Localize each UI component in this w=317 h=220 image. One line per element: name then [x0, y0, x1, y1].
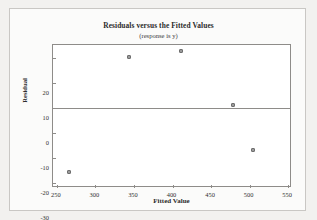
x-tick-marks [53, 45, 290, 186]
figure-canvas: Residuals versus the Fitted Values (resp… [0, 0, 317, 220]
zero-reference-line [53, 108, 290, 109]
y-tick-label: -20 [40, 188, 49, 195]
y-tick-label: -10 [40, 163, 49, 170]
plot-frame [52, 44, 291, 187]
y-axis-tick-labels: 20100-10-20-30 [24, 44, 49, 187]
x-axis-title: Fitted Value [52, 197, 291, 205]
page-title: Residuals versus the Fitted Values [10, 21, 307, 31]
chart-card: Residuals versus the Fitted Values (resp… [9, 8, 306, 211]
chart-subtitle: (response is y) [10, 31, 307, 41]
y-tick-label: 10 [43, 113, 49, 120]
data-point [179, 49, 183, 53]
data-point [127, 55, 131, 59]
y-axis-title: Residual [21, 61, 28, 121]
title-block: Residuals versus the Fitted Values (resp… [10, 21, 307, 41]
data-point [231, 103, 235, 107]
y-tick-label: 0 [46, 138, 49, 145]
y-tick-label: -30 [40, 213, 49, 220]
plot-area [53, 45, 290, 186]
y-tick-label: 20 [43, 88, 49, 95]
data-point [251, 148, 255, 152]
data-point [67, 170, 71, 174]
